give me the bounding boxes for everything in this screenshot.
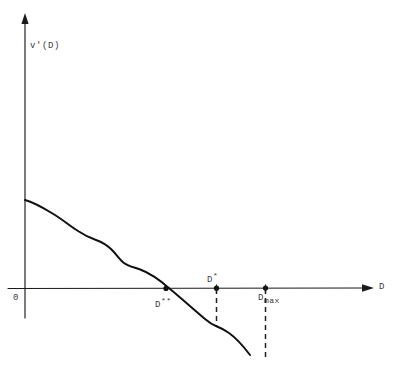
label-d-max: Dmax: [258, 294, 280, 305]
figure-canvas: v'(D) D 0 D** D* Dmax: [0, 0, 401, 375]
figure-vector-layer: [0, 0, 401, 375]
y-axis-label: v'(D): [30, 42, 60, 51]
label-d-star-sup: *: [213, 271, 218, 280]
label-d-max-sub: max: [264, 296, 280, 305]
x-axis-arrow-icon: [362, 284, 374, 292]
origin-label: 0: [13, 294, 19, 303]
label-d-double-star-sup: **: [161, 296, 172, 305]
y-axis-group: [21, 13, 28, 318]
y-axis-arrow-icon: [21, 13, 28, 24]
x-axis-group: [8, 284, 374, 292]
label-d-star: D*: [207, 272, 218, 285]
x-axis-label: D: [379, 283, 385, 292]
x-axis-line: [8, 288, 366, 289]
label-d-double-star: D**: [155, 297, 172, 310]
point-dot-d-double-star: [163, 286, 168, 291]
